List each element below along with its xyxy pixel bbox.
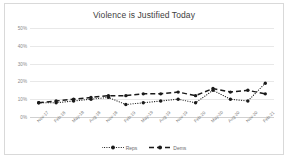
data-point-reps (124, 103, 127, 106)
data-point-dems (89, 96, 92, 99)
y-axis-tick-label: 40% (18, 43, 27, 48)
data-point-reps (159, 99, 162, 102)
chart-legend: RepsDems (5, 144, 283, 151)
data-point-dems (211, 87, 214, 90)
legend-label: Reps (126, 145, 138, 151)
legend-item-reps[interactable]: Reps (102, 144, 138, 151)
y-axis-tick-label: 20% (18, 79, 27, 84)
legend-swatch-reps-icon (102, 144, 124, 151)
data-point-reps (194, 101, 197, 104)
y-axis-tick-label: 10% (18, 97, 27, 102)
series-layer (30, 28, 274, 117)
plot-area: 0%10%20%30%40%50% (30, 28, 274, 117)
data-point-dems (54, 99, 57, 102)
data-point-dems (124, 94, 127, 97)
data-point-reps (142, 101, 145, 104)
chart-container: Violence is Justified Today 0%10%20%30%4… (4, 3, 284, 155)
data-point-dems (107, 94, 110, 97)
chart-title: Violence is Justified Today (5, 10, 283, 20)
data-point-dems (159, 92, 162, 95)
data-point-reps (264, 81, 267, 84)
data-point-dems (72, 98, 75, 101)
legend-label: Dems (173, 145, 186, 151)
data-point-reps (176, 98, 179, 101)
legend-item-dems[interactable]: Dems (149, 144, 186, 151)
data-point-reps (246, 99, 249, 102)
data-point-dems (176, 90, 179, 93)
data-point-dems (142, 92, 145, 95)
data-point-dems (264, 92, 267, 95)
y-axis-tick-label: 30% (18, 61, 27, 66)
data-point-dems (194, 94, 197, 97)
y-axis-tick-label: 0% (20, 115, 27, 120)
y-axis-tick-label: 50% (18, 26, 27, 31)
x-axis-tick-labels: Nov-17Feb-18May-18Aug-18Nov-18Feb-19May-… (30, 117, 274, 147)
data-point-dems (229, 90, 232, 93)
data-point-dems (246, 89, 249, 92)
data-point-dems (37, 101, 40, 104)
data-point-reps (229, 98, 232, 101)
legend-swatch-dems-icon (149, 144, 171, 151)
